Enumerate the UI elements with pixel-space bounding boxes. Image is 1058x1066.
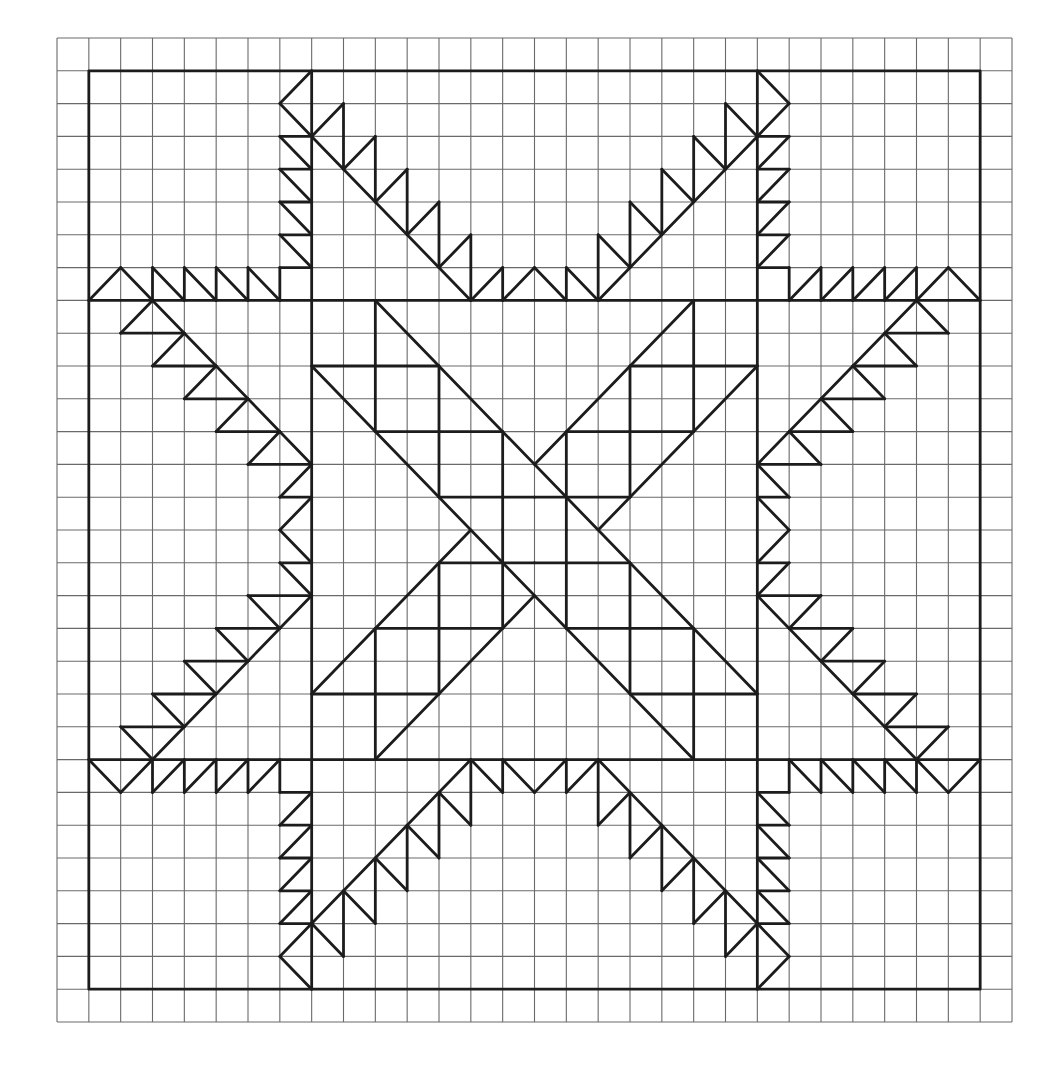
feather-segment: [280, 563, 312, 596]
feather-segment: [280, 104, 312, 137]
feather-segment: [821, 628, 853, 661]
feather-segment: [789, 596, 821, 629]
feather-segment: [89, 760, 121, 793]
feather-segment: [216, 760, 248, 793]
feather-segment: [503, 760, 535, 793]
feather-segment: [312, 104, 344, 137]
feather-segment: [757, 924, 789, 957]
feather-segment: [471, 268, 503, 301]
feather-segment: [153, 333, 185, 366]
feather-segment: [757, 792, 789, 825]
feather-segment: [598, 136, 757, 300]
feather-segment: [885, 760, 917, 793]
feather-segment: [885, 268, 917, 301]
feather-segment: [853, 760, 885, 793]
feather-segment: [630, 825, 662, 858]
center-diagonal: [535, 300, 694, 464]
feather-segment: [153, 300, 312, 464]
feather-segment: [216, 628, 248, 661]
feather-segment: [948, 268, 980, 301]
feather-segment: [280, 235, 312, 268]
feather-segment: [312, 136, 471, 300]
feather-segment: [853, 661, 885, 694]
feather-segment: [280, 825, 312, 858]
feather-segment: [216, 399, 248, 432]
feather-segment: [917, 268, 949, 301]
feather-segment: [694, 891, 726, 924]
feather-segment: [153, 760, 185, 793]
feather-segment: [757, 891, 789, 924]
feather-segment: [726, 924, 758, 957]
feather-segment: [757, 300, 916, 464]
feather-segment: [216, 268, 248, 301]
feather-segment: [917, 727, 949, 760]
feather-segment: [153, 596, 312, 760]
feather-segment: [280, 169, 312, 202]
feather-segment: [757, 563, 789, 596]
feather-segment: [248, 268, 280, 301]
feather-segment: [535, 268, 567, 301]
feather-segment: [153, 268, 185, 301]
quilt-diagram: Feathered star quilt block on graph pape…: [57, 38, 1012, 1022]
feather-segment: [280, 497, 312, 530]
feather-segment: [757, 104, 789, 137]
feather-segment: [248, 432, 280, 465]
feather-segment: [280, 530, 312, 563]
graph-paper-canvas: [57, 38, 1012, 1022]
feather-segment: [184, 366, 216, 399]
center-diagonal: [312, 530, 471, 694]
center-diagonal: [375, 596, 534, 760]
feather-segment: [121, 727, 153, 760]
feather-segment: [153, 694, 185, 727]
feather-segment: [821, 399, 853, 432]
feather-segment: [312, 924, 344, 957]
feather-segment: [821, 268, 853, 301]
feather-segment: [312, 760, 471, 924]
feather-segment: [757, 464, 789, 497]
feather-segment: [344, 891, 376, 924]
feather-segment: [662, 169, 694, 202]
feather-segment: [89, 268, 121, 301]
feather-segment: [853, 366, 885, 399]
feather-segment: [121, 760, 153, 793]
feather-segment: [821, 760, 853, 793]
feather-segment: [280, 792, 312, 825]
feather-segment: [280, 956, 312, 989]
feather-segment: [407, 825, 439, 858]
feather-segment: [248, 596, 280, 629]
feather-segment: [726, 104, 758, 137]
feather-segment: [566, 268, 598, 301]
feather-segment: [280, 136, 312, 169]
feather-segment: [471, 760, 503, 793]
feather-segment: [757, 497, 789, 530]
feather-segment: [280, 858, 312, 891]
feather-segment: [280, 202, 312, 235]
feather-segment: [757, 202, 789, 235]
feather-segment: [757, 71, 789, 104]
feather-segment: [757, 169, 789, 202]
feather-segment: [757, 825, 789, 858]
feather-segment: [248, 760, 280, 793]
feather-segment: [598, 760, 757, 924]
feather-segment: [948, 760, 980, 793]
feather-segment: [566, 760, 598, 793]
feather-segment: [121, 268, 153, 301]
feather-segment: [885, 333, 917, 366]
feather-segment: [280, 891, 312, 924]
feather-segment: [662, 858, 694, 891]
feather-segment: [184, 760, 216, 793]
feather-segment: [280, 464, 312, 497]
feather-segment: [853, 268, 885, 301]
feather-segment: [184, 661, 216, 694]
feather-segment: [630, 202, 662, 235]
feather-segment: [757, 530, 789, 563]
feather-segment: [757, 596, 916, 760]
feather-segment: [121, 300, 153, 333]
feather-segment: [439, 792, 471, 825]
feather-segment: [280, 924, 312, 957]
feather-segment: [439, 235, 471, 268]
feather-segment: [917, 300, 949, 333]
center-diagonal: [598, 366, 757, 530]
feather-segment: [757, 235, 789, 268]
feather-segment: [280, 71, 312, 104]
